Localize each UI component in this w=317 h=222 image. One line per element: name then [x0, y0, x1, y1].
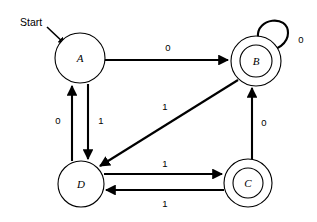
edge-label-a-to-b: 0	[165, 42, 170, 53]
edge-label-d-to-a: 0	[55, 115, 60, 126]
start-label: Start	[20, 16, 42, 28]
edge-label-c-to-d: 1	[162, 198, 167, 209]
edge-label-d-to-c: 1	[162, 158, 167, 169]
edge-label-c-to-b: 0	[261, 117, 266, 128]
edge-label-b-to-d: 1	[162, 101, 167, 112]
state-machine-diagram: Start 0 0 1 1 0 1 1 0 A	[0, 0, 317, 222]
state-d-label: D	[76, 178, 85, 190]
state-node-c[interactable]: C	[224, 159, 272, 207]
diagram-canvas: Start 0 0 1 1 0 1 1 0 A	[0, 0, 317, 222]
state-node-d[interactable]: D	[58, 161, 104, 207]
state-a-label: A	[76, 52, 84, 64]
state-node-b[interactable]: B	[231, 36, 281, 86]
state-c-label: C	[244, 177, 252, 189]
state-b-label: B	[253, 55, 260, 67]
edge-label-a-to-d: 1	[98, 115, 103, 126]
edge-b-to-d	[100, 80, 238, 166]
edge-label-b-self-loop: 0	[298, 34, 303, 45]
state-node-a[interactable]: A	[55, 33, 105, 83]
